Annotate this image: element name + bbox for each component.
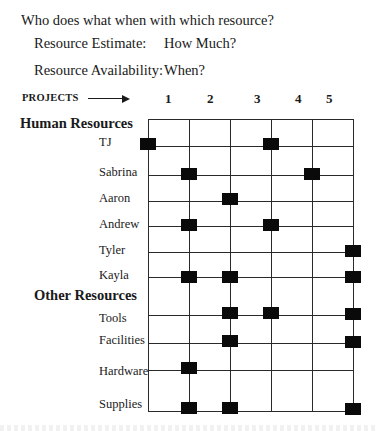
section-heading-human-resources: Human Resources xyxy=(20,115,133,132)
allocation-marker-kayla-6 xyxy=(345,271,361,283)
grid-vline-1 xyxy=(148,119,149,412)
allocation-marker-hardware-2 xyxy=(181,362,197,374)
grid-top-border xyxy=(148,119,354,120)
row-label-hardware: Hardware xyxy=(99,364,148,379)
grid-row-line-facilities xyxy=(148,343,354,344)
row-label-tools: Tools xyxy=(99,311,127,326)
clipped-caption-strip xyxy=(0,425,377,431)
allocation-marker-tools-6 xyxy=(345,308,361,320)
grid-row-line-aaron xyxy=(148,201,354,202)
project-number-1: 1 xyxy=(165,91,172,107)
allocation-marker-tj-1 xyxy=(140,138,156,150)
row-label-tj: TJ xyxy=(99,135,112,150)
allocation-marker-tj-4 xyxy=(263,138,279,150)
grid-vline-5 xyxy=(312,119,313,412)
row-label-sabrina: Sabrina xyxy=(99,165,137,180)
allocation-marker-facilities-3 xyxy=(222,335,238,347)
grid-row-line-sabrina xyxy=(148,175,354,176)
row-label-supplies: Supplies xyxy=(99,397,142,412)
allocation-marker-supplies-2 xyxy=(181,402,197,414)
project-number-2: 2 xyxy=(207,91,214,107)
row-label-aaron: Aaron xyxy=(99,191,130,206)
right-arrow-icon xyxy=(88,98,128,99)
section-heading-other-resources: Other Resources xyxy=(34,287,137,304)
projects-label: PROJECTS xyxy=(22,92,78,103)
allocation-marker-sabrina-5 xyxy=(304,168,320,180)
project-number-4: 4 xyxy=(295,91,302,107)
grid-row-line-tools xyxy=(148,315,354,316)
project-number-3: 3 xyxy=(254,91,261,107)
resource-estimate-value: How Much? xyxy=(164,35,236,52)
grid-row-line-andrew xyxy=(148,226,354,227)
project-number-5: 5 xyxy=(326,91,333,107)
allocation-marker-kayla-2 xyxy=(181,271,197,283)
diagram-title: Who does what when with which resource? xyxy=(21,12,274,29)
grid-row-line-tj xyxy=(148,146,354,147)
allocation-marker-andrew-2 xyxy=(181,219,197,231)
row-label-facilities: Facilities xyxy=(99,333,145,348)
allocation-marker-tyler-6 xyxy=(345,245,361,257)
grid-row-line-tyler xyxy=(148,252,354,253)
allocation-marker-andrew-4 xyxy=(263,219,279,231)
resource-estimate-label: Resource Estimate: xyxy=(34,35,146,52)
allocation-marker-facilities-6 xyxy=(345,336,361,348)
grid-vline-6 xyxy=(353,119,354,412)
allocation-marker-supplies-3 xyxy=(222,402,238,414)
resource-availability-value: When? xyxy=(164,62,205,79)
grid-row-line-kayla xyxy=(148,277,354,278)
grid-row-line-hardware xyxy=(148,370,354,371)
resource-availability-label: Resource Availability: xyxy=(34,62,163,79)
row-label-kayla: Kayla xyxy=(99,268,129,283)
allocation-marker-aaron-3 xyxy=(222,193,238,205)
allocation-marker-tools-3 xyxy=(222,307,238,319)
row-label-andrew: Andrew xyxy=(99,217,139,232)
grid-row-line-supplies xyxy=(148,411,354,412)
allocation-marker-kayla-3 xyxy=(222,271,238,283)
grid-vline-3 xyxy=(230,119,231,412)
allocation-marker-tools-4 xyxy=(263,307,279,319)
allocation-marker-sabrina-2 xyxy=(181,168,197,180)
grid-vline-4 xyxy=(271,119,272,412)
row-label-tyler: Tyler xyxy=(99,243,125,258)
allocation-marker-supplies-6 xyxy=(345,403,361,415)
